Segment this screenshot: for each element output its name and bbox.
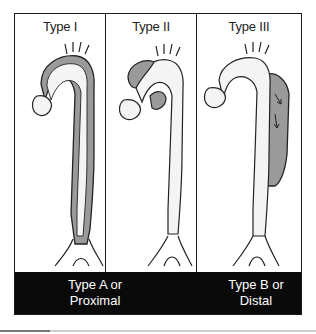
label-type-b-line1: Type B or [211,277,301,293]
panel-type-1: Type I [15,14,106,272]
panel-type-3: Type III [197,14,301,272]
rule-accent [0,330,50,332]
label-type-b-distal: Type B or Distal [211,277,301,309]
panel-type-2: Type II [106,14,197,272]
label-type-a-line1: Type A or [45,277,145,293]
label-type-a-line2: Proximal [45,293,145,309]
classification-band: Type A or Proximal Type B or Distal [15,272,301,314]
page-bottom-rule [0,330,316,332]
aorta-type-2-illustration [106,14,197,272]
aorta-type-3-illustration [197,14,301,272]
aorta-type-1-illustration [15,14,106,272]
figure-frame: Type I Type II [14,13,302,315]
label-type-a-proximal: Type A or Proximal [45,277,145,309]
label-type-b-line2: Distal [211,293,301,309]
